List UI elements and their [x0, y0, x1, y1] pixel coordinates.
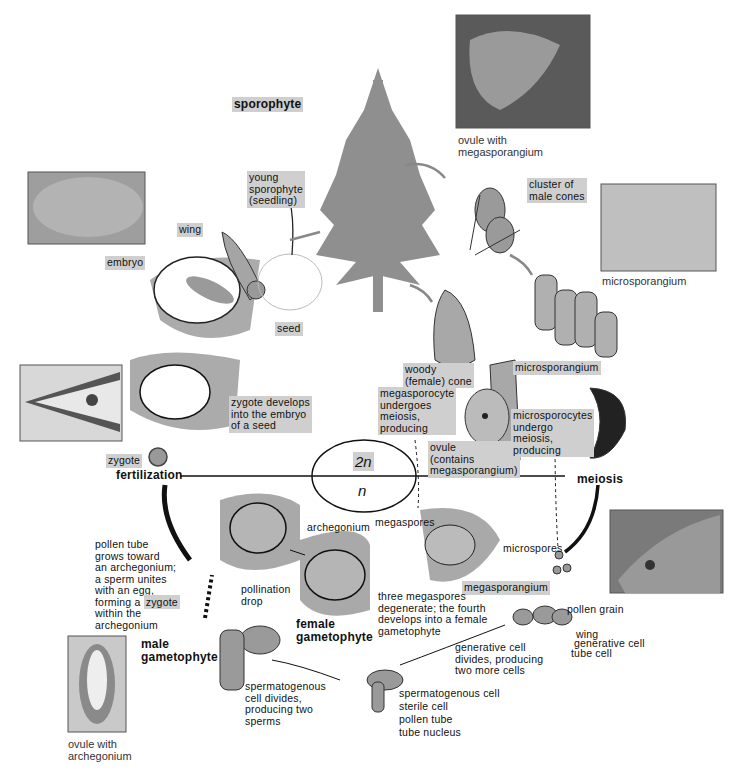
diagram-canvas: [0, 0, 738, 775]
microsporangium-photo: [601, 184, 716, 271]
arrow-cones-to-sporangia: [510, 255, 532, 275]
megasporocyte-label: megasporocyte undergoes meiosis, produci…: [378, 387, 456, 435]
fertilization-label: fertilization: [116, 469, 183, 482]
haploid-label: n: [358, 482, 366, 499]
arrow-male-to-archegonium: [205, 575, 212, 618]
male-cone-cluster-icon: [470, 188, 520, 255]
spermatogenous-cell-label: spermatogenous cell: [399, 688, 500, 700]
microsporocytes-label: microsporocytes undergo meiosis, produci…: [511, 409, 594, 457]
arrow-seedling-to-tree: [290, 232, 320, 240]
microspores-label: microspores: [503, 543, 562, 555]
pollen-tube-description: pollen tube grows toward an archegonium;…: [95, 539, 180, 631]
arrow-meiosis: [565, 485, 598, 552]
zygote-label: zygote: [106, 454, 142, 468]
ovule-megasporangium-photo: [456, 15, 590, 128]
generative-divides-label: generative cell divides, producing two m…: [455, 642, 543, 677]
cluster-male-cones-label: cluster of male cones: [527, 178, 587, 203]
microsporangia-icon: [535, 275, 617, 357]
pollen-grain-photo: [610, 510, 723, 593]
pollen-grain-icon: [513, 606, 572, 625]
ovule-archegonium-caption: ovule with archegonium: [68, 738, 132, 762]
microsporangium-label: microsporangium: [513, 361, 601, 375]
male-gametophyte-label: male gametophyte: [141, 638, 218, 664]
zygote-icon: [149, 448, 167, 466]
microsporangium-caption: microsporangium: [602, 275, 686, 287]
megaspores-label: megaspores: [375, 517, 435, 529]
seed-photo-icon: [28, 172, 145, 244]
zygote-photo-icon: [20, 365, 122, 441]
wing-seed-label: wing: [177, 223, 203, 237]
ovule-megasporangium-caption: ovule with megasporangium: [458, 134, 543, 158]
germinating-pollen-icon: [367, 670, 403, 712]
woody-cone-label: woody (female) cone: [403, 363, 474, 388]
woody-cone-icon: [434, 290, 475, 368]
three-megaspores-label: three megaspores degenerate; the fourth …: [378, 591, 487, 637]
zygote-highlight: zygote: [144, 595, 180, 609]
arrow-tree-to-female-cone: [410, 285, 432, 302]
embryo-label: embryo: [105, 256, 145, 270]
pollination-drop-label: pollination drop: [241, 584, 291, 607]
tube-cell-label: tube cell: [571, 648, 612, 660]
ovule-label: ovule (contains megasporangium): [428, 441, 520, 478]
meiosis-label: meiosis: [577, 473, 623, 486]
arrow-tube-to-male: [272, 660, 340, 680]
seed-label: seed: [275, 322, 303, 336]
pollen-grain-label: pollen grain: [567, 604, 624, 616]
spermatogenous-divides-label: spermatogenous cell divides, producing t…: [245, 681, 326, 727]
zygote-develops-label: zygote develops into the embryo of a see…: [229, 396, 312, 433]
young-sporophyte-label: young sporophyte (seedling): [247, 171, 305, 208]
pine-tree-icon: [316, 68, 440, 312]
pollen-tube-label: pollen tube: [399, 714, 453, 726]
developing-embryo-icon: [140, 365, 210, 419]
female-gametophyte-label: female gametophyte: [296, 618, 373, 644]
ovule-archegonium-photo: [68, 636, 126, 732]
sporophyte-label: sporophyte: [232, 97, 303, 112]
archegonium-label: archegonium: [307, 522, 370, 534]
diploid-label: 2n: [353, 452, 374, 471]
sterile-cell-label: sterile cell: [399, 701, 448, 713]
tube-nucleus-label: tube nucleus: [399, 727, 461, 739]
microsporocyte-sac-icon: [590, 388, 626, 458]
